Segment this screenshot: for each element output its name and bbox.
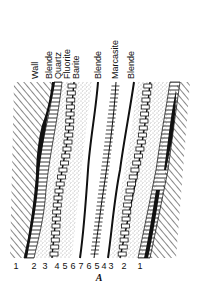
layer-label: Barite xyxy=(71,55,81,79)
figure-caption: A xyxy=(95,272,103,283)
layer-number: 1 xyxy=(13,261,18,271)
layer-label: Blende xyxy=(93,51,103,79)
layer-number: 5 xyxy=(62,261,67,271)
layer-number: 4 xyxy=(54,261,59,271)
layer-number: 3 xyxy=(108,261,113,271)
layer-number: 6 xyxy=(70,261,75,271)
layer-label: Marcasite xyxy=(110,40,120,79)
layer-numbers: 1234567654321 xyxy=(13,261,142,271)
layer-number: 2 xyxy=(31,261,36,271)
vein-banding-diagram: WallBlendeQuartzFluoriteBariteBlendeMarc… xyxy=(0,0,199,291)
layer-number: 4 xyxy=(101,261,106,271)
layer-number: 3 xyxy=(42,261,47,271)
layer-label: Blende xyxy=(126,51,136,79)
layer-number: 5 xyxy=(94,261,99,271)
layer-labels: WallBlendeQuartzFluoriteBariteBlendeMarc… xyxy=(30,40,136,79)
layer-number: 6 xyxy=(86,261,91,271)
layer-label: Wall xyxy=(30,62,40,79)
layer-number: 2 xyxy=(121,261,126,271)
layer-number: 7 xyxy=(78,261,83,271)
layer-number: 1 xyxy=(137,261,142,271)
